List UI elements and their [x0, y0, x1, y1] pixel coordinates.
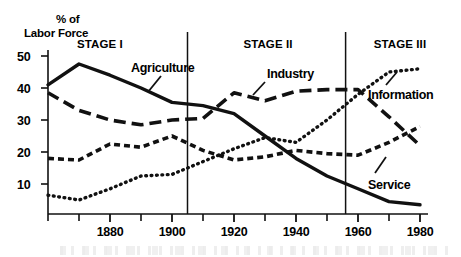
y-axis-title-line1: % of [56, 13, 80, 25]
annotation-leader-lines [148, 72, 397, 173]
series-label-agriculture: Agriculture [131, 61, 195, 75]
y-tick-label-50: 50 [17, 50, 31, 64]
y-tick-label-20: 20 [17, 146, 31, 160]
leader-line-industry [253, 82, 265, 95]
x-axis-ticks [48, 214, 420, 222]
stage-label-1: STAGE I [77, 38, 123, 50]
series-line-service [48, 126, 420, 160]
series-line-agriculture [48, 64, 420, 205]
y-axis-ticks [41, 56, 48, 184]
leader-line-service [375, 157, 386, 173]
series-label-information: Information [368, 88, 433, 102]
leader-line-agriculture [148, 76, 161, 92]
x-tick-label-1920: 1920 [221, 225, 248, 239]
series-line-industry [48, 90, 420, 146]
chart-container: % of Labor Force 50 40 30 20 10 [0, 0, 461, 257]
stage-label-3: STAGE III [374, 38, 426, 50]
x-tick-label-1960: 1960 [345, 225, 372, 239]
series-label-industry: Industry [267, 67, 314, 81]
x-tick-label-1900: 1900 [159, 225, 186, 239]
y-tick-label-30: 30 [17, 114, 31, 128]
stage-label-2: STAGE II [243, 38, 292, 50]
x-axis-tick-labels: 1880 1900 1920 1940 1960 1980 [97, 225, 434, 239]
x-tick-label-1980: 1980 [407, 225, 434, 239]
y-axis-tick-labels: 50 40 30 20 10 [17, 50, 31, 192]
y-tick-label-10: 10 [17, 178, 31, 192]
x-tick-label-1940: 1940 [283, 225, 310, 239]
series-line-information [48, 69, 420, 200]
series-label-service: Service [368, 178, 411, 192]
y-tick-label-40: 40 [17, 82, 31, 96]
x-tick-label-1880: 1880 [97, 225, 124, 239]
labor-force-line-chart: % of Labor Force 50 40 30 20 10 [0, 0, 461, 257]
